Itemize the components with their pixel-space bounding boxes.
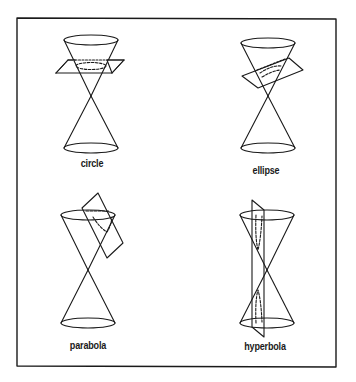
parabola-cutting-plane <box>82 193 123 258</box>
ellipse-cone-top-rim <box>241 38 295 48</box>
circle-panel <box>56 35 124 153</box>
hyperbola-panel <box>240 200 294 337</box>
conic-sections-figure <box>0 0 356 382</box>
label-circle: circle <box>81 157 104 169</box>
label-hyperbola: hyperbola <box>244 340 286 352</box>
parabola-cone-bottom-rim <box>61 318 115 328</box>
parabola-panel <box>61 193 123 328</box>
ellipse-cone-bottom-rim <box>241 143 295 153</box>
label-parabola: parabola <box>70 339 106 351</box>
circle-cone-bottom-rim <box>64 143 118 153</box>
circle-intersection <box>76 63 106 70</box>
hyperbola-cone-bottom-rim <box>240 318 294 328</box>
ellipse-panel <box>241 38 303 153</box>
hyperbola-cone-top-rim <box>240 210 294 220</box>
label-ellipse: ellipse <box>253 164 280 176</box>
circle-cone-top-rim <box>64 35 118 45</box>
